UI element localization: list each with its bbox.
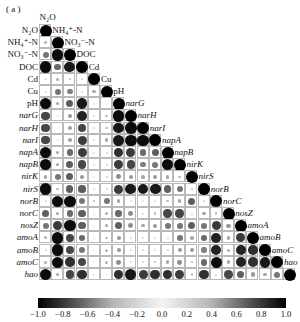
matrix-cell	[63, 158, 75, 170]
correlation-circle	[248, 245, 258, 255]
correlation-circle	[54, 64, 61, 71]
matrix-cell	[63, 207, 75, 219]
correlation-circle	[66, 185, 73, 192]
row-label: amoC	[0, 256, 38, 268]
correlation-circle	[167, 237, 169, 239]
correlation-circle	[177, 186, 183, 192]
correlation-circle	[211, 257, 222, 268]
matrix-cell	[149, 207, 161, 219]
correlation-circle	[125, 110, 137, 122]
matrix-cell	[124, 183, 136, 195]
correlation-circle	[88, 73, 100, 85]
matrix-cell	[51, 73, 63, 85]
colorbar-tick: −0.6	[80, 309, 95, 319]
matrix-cell	[51, 85, 63, 97]
matrix-cell	[100, 109, 112, 121]
matrix-cell	[76, 219, 88, 231]
correlation-circle	[66, 161, 73, 168]
correlation-circle	[79, 235, 86, 242]
matrix-cell	[63, 73, 75, 85]
correlation-circle	[113, 135, 124, 146]
correlation-circle	[190, 236, 194, 240]
correlation-circle	[106, 164, 108, 166]
matrix-cell	[112, 122, 124, 134]
correlation-circle	[165, 223, 171, 229]
correlation-circle	[81, 78, 83, 80]
correlation-circle	[93, 200, 95, 202]
correlation-circle	[175, 270, 184, 279]
matrix-cell	[198, 195, 210, 207]
correlation-circle	[93, 152, 95, 154]
correlation-circle	[93, 164, 95, 166]
correlation-circle	[127, 160, 135, 168]
correlation-circle	[93, 274, 95, 276]
correlation-circle	[93, 103, 95, 105]
matrix-cell	[210, 195, 222, 207]
correlation-circle	[106, 274, 108, 276]
correlation-circle	[167, 249, 169, 251]
matrix-cell	[149, 256, 161, 268]
correlation-circle	[77, 270, 87, 280]
column-label: narH	[138, 109, 157, 121]
matrix-cell	[124, 170, 136, 182]
colorbar-tick: −0.8	[55, 309, 70, 319]
matrix-cell	[149, 231, 161, 243]
row-label: nosZ	[0, 219, 38, 231]
matrix-cell	[88, 207, 100, 219]
matrix-cell	[198, 244, 210, 256]
correlation-circle	[130, 237, 132, 239]
correlation-circle	[248, 257, 258, 267]
matrix-cell	[137, 158, 149, 170]
matrix-cell	[76, 268, 88, 280]
matrix-cell	[198, 268, 210, 280]
matrix-cell	[88, 219, 100, 231]
matrix-cell	[112, 109, 124, 121]
correlation-circle	[66, 100, 73, 107]
correlation-circle	[101, 86, 113, 98]
matrix-cell	[161, 158, 173, 170]
matrix-cell	[173, 268, 185, 280]
correlation-circle	[153, 224, 157, 228]
correlation-circle	[93, 176, 95, 178]
matrix-cell	[39, 170, 51, 182]
correlation-circle	[56, 163, 60, 167]
matrix-cell	[161, 219, 173, 231]
matrix-cell	[39, 195, 51, 207]
correlation-circle	[140, 149, 147, 156]
matrix-cell	[246, 268, 258, 280]
column-label: nirS	[199, 170, 214, 182]
matrix-cell	[173, 195, 185, 207]
matrix-cell	[124, 207, 136, 219]
correlation-circle	[64, 49, 76, 61]
column-label: narI	[150, 122, 166, 134]
correlation-circle	[66, 246, 74, 254]
matrix-cell	[76, 183, 88, 195]
correlation-circle	[201, 223, 207, 229]
correlation-circle	[117, 248, 121, 252]
matrix-cell	[100, 183, 112, 195]
matrix-cell	[124, 146, 136, 158]
correlation-circle	[284, 269, 296, 281]
correlation-circle	[199, 270, 209, 280]
correlation-circle	[164, 185, 171, 192]
matrix-cell	[185, 195, 197, 207]
correlation-circle	[215, 212, 217, 214]
correlation-circle	[153, 175, 157, 179]
row-label: narG	[0, 109, 38, 121]
correlation-circle	[93, 127, 95, 129]
matrix-cell	[234, 268, 246, 280]
matrix-cell	[63, 195, 75, 207]
matrix-cell	[100, 256, 112, 268]
correlation-circle	[125, 184, 136, 195]
correlation-circle	[66, 173, 73, 180]
matrix-cell	[100, 207, 112, 219]
correlation-circle	[274, 272, 280, 278]
matrix-cell	[124, 158, 136, 170]
correlation-circle	[45, 200, 47, 202]
matrix-cell	[100, 158, 112, 170]
matrix-cell	[222, 268, 234, 280]
correlation-circle	[224, 270, 232, 278]
matrix-cell	[185, 256, 197, 268]
matrix-cell	[137, 207, 149, 219]
matrix-cell	[234, 231, 246, 243]
